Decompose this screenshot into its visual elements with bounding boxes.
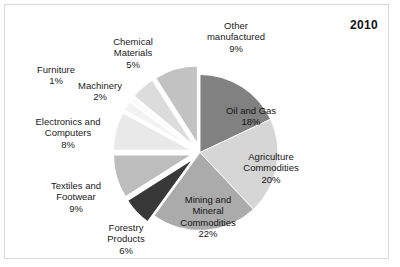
label-oil-and-gas-text: Oil and Gas	[226, 105, 276, 116]
label-electronics-and-computers-pct: 8%	[16, 139, 120, 151]
label-other-manufactured-pct: 9%	[188, 43, 284, 55]
label-mining-and-mineral-commodities-text: Mining and Mineral Commodities	[180, 194, 235, 228]
label-machinery-text: Machinery	[78, 80, 122, 91]
label-agriculture-commodities-text: Agriculture Commodities	[243, 151, 298, 174]
label-agriculture-commodities-pct: 20%	[261, 174, 280, 185]
label-machinery-pct: 2%	[62, 91, 138, 103]
label-forestry-products: Forestry Products 6%	[88, 210, 164, 267]
label-textiles-and-footwear-text: Textiles and Footwear	[51, 180, 101, 203]
label-electronics-and-computers-text: Electronics and Computers	[36, 116, 101, 139]
label-other-manufactured-text: Other manufactured	[207, 20, 265, 43]
label-forestry-products-pct: 6%	[88, 245, 164, 257]
chart-year-title: 2010	[350, 18, 378, 32]
label-agriculture-commodities: Agriculture Commodities 20%	[228, 139, 314, 185]
label-electronics-and-computers: Electronics and Computers 8%	[16, 104, 120, 162]
label-oil-and-gas: Oil and Gas 18%	[205, 93, 297, 128]
label-mining-and-mineral-commodities-pct: 22%	[198, 228, 217, 239]
label-forestry-products-text: Forestry Products	[107, 222, 145, 245]
label-chemical-materials-text: Chemical Materials	[113, 36, 153, 59]
label-oil-and-gas-pct: 18%	[241, 116, 260, 127]
label-other-manufactured: Other manufactured 9%	[188, 8, 284, 66]
pie-chart: 2010 Other manufactured 9% Chemical Mate…	[0, 0, 400, 267]
label-mining-and-mineral-commodities: Mining and Mineral Commodities 22%	[163, 182, 253, 240]
